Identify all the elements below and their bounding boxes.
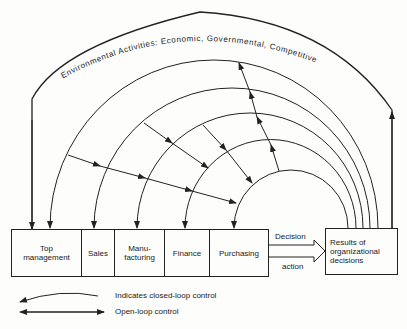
environment-arc	[32, 12, 392, 230]
decision-arrow	[268, 240, 325, 262]
department-purchasing: Purchasing	[209, 229, 269, 277]
results-box: Results oforganizationaldecisions	[325, 228, 398, 275]
svg-text:Environmental Activities: Econ: Environmental Activities: Economic, Gove…	[59, 34, 318, 80]
legend-open-loop-text: Open-loop control	[115, 307, 179, 316]
arc-purchasing	[234, 170, 348, 228]
department-finance: Finance	[164, 229, 210, 277]
department-sales: Sales	[81, 229, 115, 277]
decision-label: Decision	[275, 232, 306, 241]
department-manufacturing: Manu-facturing	[114, 229, 165, 277]
closed-loop-legend-icon	[20, 293, 98, 302]
feedback-control-diagram: Environmental Activities: Economic, Gove…	[0, 0, 407, 329]
department-top-management: Topmanagement	[11, 229, 82, 277]
environment-label: Environmental Activities: Economic, Gove…	[59, 34, 318, 80]
diagram-arcs: Environmental Activities: Economic, Gove…	[0, 0, 407, 329]
arc-top-management	[50, 60, 378, 228]
arc-manufacturing	[137, 113, 363, 228]
legend-closed-loop-text: Indicates closed-loop control	[115, 291, 216, 300]
action-label: action	[282, 262, 303, 271]
arc-finance	[185, 140, 356, 228]
